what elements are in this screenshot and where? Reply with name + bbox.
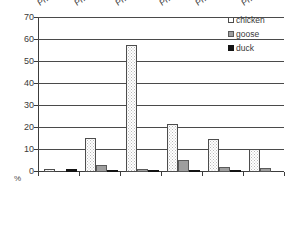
legend: chicken goose duck bbox=[228, 14, 288, 56]
category-tick bbox=[202, 172, 203, 176]
bar-chart: 70 60 50 40 30 20 10 0 % bbox=[0, 0, 288, 227]
legend-label-goose: goose bbox=[236, 30, 259, 39]
bar-chicken-phases-9-10 bbox=[208, 139, 219, 172]
bar-goose-phases-9-10 bbox=[219, 167, 230, 172]
bar-duck-phases-5-7 bbox=[148, 170, 159, 172]
x-tick-label-phase-2: Phase 2 bbox=[36, 0, 67, 8]
legend-item-goose[interactable]: goose bbox=[228, 28, 288, 40]
gridline-40 bbox=[38, 83, 284, 84]
y-tick-label: 60 bbox=[4, 35, 34, 44]
bar-duck-phase-8 bbox=[189, 170, 200, 172]
y-axis-unit-label: % bbox=[14, 175, 21, 183]
bar-duck-phase-2 bbox=[66, 169, 77, 172]
y-tick-label: 70 bbox=[4, 13, 34, 22]
category-tick bbox=[120, 172, 121, 176]
category-tick bbox=[243, 172, 244, 176]
legend-swatch-goose-icon bbox=[228, 31, 234, 37]
category-tick bbox=[38, 172, 39, 176]
bar-duck-phases-9-10 bbox=[230, 170, 241, 172]
bar-goose-phase-8 bbox=[178, 160, 189, 172]
bar-goose-phases-2-4 bbox=[96, 165, 107, 172]
category-tick bbox=[284, 172, 285, 176]
y-tick-label: 10 bbox=[4, 145, 34, 154]
y-tick-label: 40 bbox=[4, 79, 34, 88]
y-tick-label: 20 bbox=[4, 123, 34, 132]
bar-chicken-phases-2-4 bbox=[85, 138, 96, 172]
y-tick-label: 30 bbox=[4, 101, 34, 110]
legend-swatch-chicken-icon bbox=[228, 17, 234, 23]
legend-item-duck[interactable]: duck bbox=[228, 42, 288, 54]
bar-chicken-phase-8 bbox=[167, 124, 178, 172]
x-tick-label-phases-2-4: Phases 2-4 bbox=[73, 0, 114, 8]
bar-duck-phases-2-4 bbox=[107, 170, 118, 172]
category-tick bbox=[79, 172, 80, 176]
bar-chicken-phase-11 bbox=[249, 149, 260, 172]
gridline-20 bbox=[38, 127, 284, 128]
legend-label-duck: duck bbox=[236, 44, 254, 53]
bar-goose-phases-5-7 bbox=[137, 169, 148, 172]
x-tick-label-phases-5-7: Phases 5-7 bbox=[114, 0, 155, 8]
y-axis-labels: 70 60 50 40 30 20 10 0 bbox=[0, 0, 34, 227]
category-tick bbox=[161, 172, 162, 176]
gridline-50 bbox=[38, 61, 284, 62]
gridline-10 bbox=[38, 149, 284, 150]
x-tick-label-phase-8: Phase 8 bbox=[158, 0, 189, 8]
bar-chicken-phases-5-7 bbox=[126, 45, 137, 172]
x-tick-label-phase-11: Phase 11 bbox=[240, 0, 275, 8]
y-tick-label: 50 bbox=[4, 57, 34, 66]
x-tick-label-phases-9-10: Phases 9-10 bbox=[194, 0, 239, 8]
legend-label-chicken: chicken bbox=[236, 16, 265, 25]
legend-item-chicken[interactable]: chicken bbox=[228, 14, 288, 26]
gridline-30 bbox=[38, 105, 284, 106]
bar-chicken-phase-2 bbox=[44, 169, 55, 172]
legend-swatch-duck-icon bbox=[228, 45, 234, 51]
bar-goose-phase-11 bbox=[260, 168, 271, 172]
